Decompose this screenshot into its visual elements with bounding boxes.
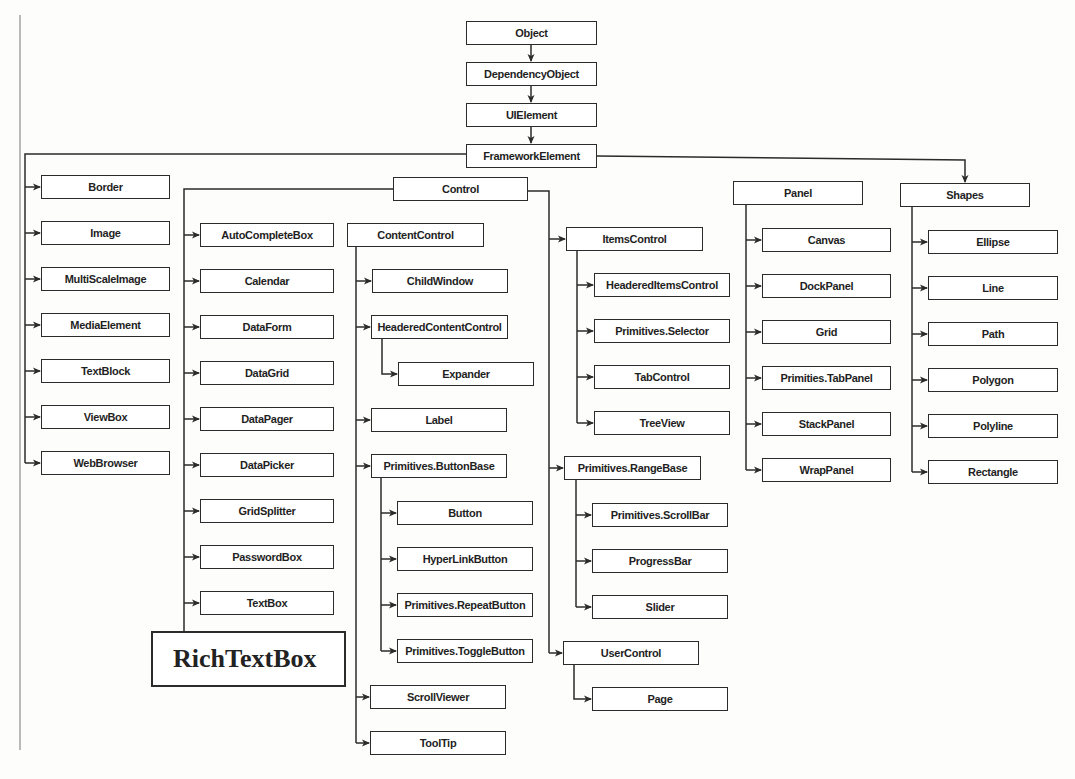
class-node-textbox: TextBox	[200, 591, 334, 615]
class-node-label: Label	[371, 408, 507, 432]
class-node-polygon: Polygon	[928, 368, 1058, 392]
class-node-textblock: TextBlock	[41, 359, 170, 383]
class-node-object: Object	[466, 21, 597, 45]
class-node-richtextbox: RichTextBox	[151, 631, 346, 687]
class-node-itemscontrol: ItemsControl	[566, 227, 703, 251]
class-node-line: Line	[928, 276, 1058, 300]
class-node-wrappanel: WrapPanel	[762, 458, 891, 482]
class-node-slider: Slider	[592, 595, 728, 619]
class-node-canvas: Canvas	[762, 228, 891, 252]
class-node-scrollviewer: ScrollViewer	[370, 685, 506, 709]
class-node-hyperlinkbutton: HyperLinkButton	[397, 547, 533, 571]
class-node-dependencyobject: DependencyObject	[466, 62, 597, 86]
class-node-grid: Grid	[762, 320, 891, 344]
class-node-headeredcontentcontrol: HeaderedContentControl	[371, 315, 508, 339]
class-node-datagrid: DataGrid	[200, 361, 334, 385]
class-node-multiscaleimage: MultiScaleImage	[41, 267, 170, 291]
class-node-primitivesrangebase: Primitives.RangeBase	[564, 456, 701, 480]
class-node-primitivesrepeatbutton: Primitives.RepeatButton	[397, 593, 533, 617]
class-node-contentcontrol: ContentControl	[347, 223, 484, 247]
class-node-viewbox: ViewBox	[41, 405, 170, 429]
class-node-stackpanel: StackPanel	[762, 412, 891, 436]
class-node-webbrowser: WebBrowser	[41, 451, 170, 475]
class-node-button: Button	[397, 501, 533, 525]
class-node-control: Control	[393, 177, 528, 201]
class-node-primitiestabpanel: Primities.TabPanel	[762, 366, 891, 390]
class-node-primitivestogglebutton: Primitives.ToggleButton	[397, 639, 533, 663]
class-node-primitivesscrollbar: Primitives.ScrollBar	[592, 503, 728, 527]
class-node-primitivesbuttonbase: Primitives.ButtonBase	[371, 454, 507, 478]
class-node-usercontrol: UserControl	[563, 641, 699, 665]
class-node-ellipse: Ellipse	[928, 230, 1058, 254]
class-node-panel: Panel	[733, 181, 863, 205]
class-hierarchy-diagram: ObjectDependencyObjectUIElementFramework…	[0, 0, 1075, 779]
class-node-childwindow: ChildWindow	[372, 269, 508, 293]
class-node-image: Image	[41, 221, 170, 245]
class-node-tabcontrol: TabControl	[594, 365, 730, 389]
class-node-gridsplitter: GridSplitter	[200, 499, 334, 523]
class-node-passwordbox: PasswordBox	[200, 545, 334, 569]
class-node-mediaelement: MediaElement	[41, 313, 170, 337]
class-node-treeview: TreeView	[594, 411, 730, 435]
class-node-tooltip: ToolTip	[370, 731, 506, 755]
class-node-page: Page	[592, 687, 728, 711]
class-node-expander: Expander	[398, 362, 534, 386]
class-node-shapes: Shapes	[900, 183, 1030, 207]
class-node-datapicker: DataPicker	[200, 453, 334, 477]
class-node-progressbar: ProgressBar	[592, 549, 728, 573]
class-node-dockpanel: DockPanel	[762, 274, 891, 298]
class-node-datapager: DataPager	[200, 407, 334, 431]
class-node-border: Border	[41, 175, 170, 199]
class-node-uielement: UIElement	[466, 103, 597, 127]
class-node-frameworkelement: FrameworkElement	[466, 144, 597, 168]
class-node-headereditemscontrol: HeaderedItemsControl	[594, 273, 730, 297]
class-node-polyline: Polyline	[928, 414, 1058, 438]
class-node-dataform: DataForm	[200, 315, 334, 339]
class-node-autocompletebox: AutoCompleteBox	[200, 223, 334, 247]
class-node-rectangle: Rectangle	[928, 460, 1058, 484]
class-node-primitivesselector: Primitives.Selector	[594, 319, 730, 343]
class-node-calendar: Calendar	[200, 269, 334, 293]
class-node-path: Path	[928, 322, 1058, 346]
